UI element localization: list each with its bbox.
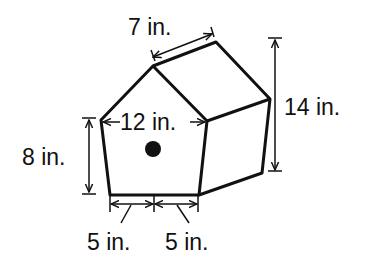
prism-diagram: 7 in. 14 in. 12 in. 8 in. 5 in. 5 in.	[0, 0, 374, 274]
side-edge	[207, 99, 270, 121]
base-left-label: 5 in.	[87, 231, 130, 254]
total-height-label: 14 in.	[284, 96, 340, 119]
front-width-label: 12 in.	[120, 111, 176, 134]
base-right-label: 5 in.	[165, 231, 208, 254]
base-left-leader	[121, 205, 131, 223]
wall-height-label: 8 in.	[22, 146, 65, 169]
base-right-leader	[177, 205, 189, 223]
depth-tick-right	[211, 27, 214, 37]
depth-tick-left	[151, 50, 155, 61]
entrance-hole	[145, 141, 161, 157]
depth-label: 7 in.	[128, 16, 171, 39]
